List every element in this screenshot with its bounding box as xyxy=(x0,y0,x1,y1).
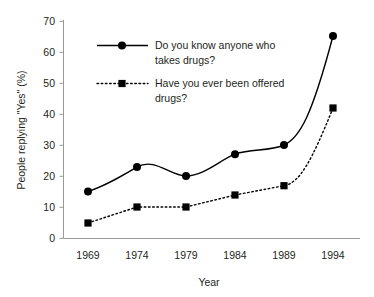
legend-label-offered-drugs-line1: Have you ever been offered xyxy=(155,77,285,89)
data-point-circle-1989 xyxy=(280,141,288,149)
data-point-square-1979 xyxy=(182,203,189,210)
data-point-circle-1974 xyxy=(133,163,141,171)
axis-group xyxy=(60,20,361,239)
data-point-square-1984 xyxy=(231,191,238,198)
series-offered-drugs xyxy=(84,104,336,226)
data-point-circle-1969 xyxy=(84,188,92,196)
x-tick-label-1994: 1994 xyxy=(321,249,345,261)
x-tick-label-1989: 1989 xyxy=(272,249,296,261)
legend-label-know-anyone-line1: Do you know anyone who xyxy=(155,39,275,51)
data-point-circle-1994 xyxy=(329,32,337,40)
x-tick-label-1969: 1969 xyxy=(76,249,100,261)
filled-square-marker-icon xyxy=(118,80,125,87)
chart-canvas: 70 60 50 40 30 20 10 0 1969 1974 1979 19… xyxy=(0,0,374,297)
y-tick-label-30: 30 xyxy=(43,139,55,151)
legend-item-know-anyone: Do you know anyone who takes drugs? xyxy=(97,39,275,66)
y-tick-label-40: 40 xyxy=(43,108,55,120)
data-point-square-1974 xyxy=(133,203,140,210)
data-point-square-1969 xyxy=(84,219,91,226)
x-tick-label-1974: 1974 xyxy=(125,249,149,261)
legend: Do you know anyone who takes drugs? Have… xyxy=(97,39,285,104)
legend-item-offered-drugs: Have you ever been offered drugs? xyxy=(97,77,285,104)
y-tick-marks xyxy=(60,21,64,238)
y-tick-label-50: 50 xyxy=(43,77,55,89)
y-tick-label-20: 20 xyxy=(43,170,55,182)
series-offered-drugs-line xyxy=(88,108,333,223)
line-chart-figure: 70 60 50 40 30 20 10 0 1969 1974 1979 19… xyxy=(0,0,374,297)
y-tick-label-10: 10 xyxy=(43,201,55,213)
y-tick-label-60: 60 xyxy=(43,46,55,58)
y-tick-labels: 70 60 50 40 30 20 10 0 xyxy=(43,15,55,244)
y-axis-title: People replying "Yes" (%) xyxy=(15,70,27,189)
y-tick-label-0: 0 xyxy=(49,232,55,244)
data-point-circle-1979 xyxy=(182,172,190,180)
data-point-square-1989 xyxy=(280,182,287,189)
filled-circle-marker-icon xyxy=(118,42,126,50)
x-tick-label-1979: 1979 xyxy=(174,249,198,261)
data-point-circle-1984 xyxy=(231,150,239,158)
legend-label-know-anyone-line2: takes drugs? xyxy=(155,54,215,66)
data-point-square-1994 xyxy=(329,104,336,111)
y-tick-label-70: 70 xyxy=(43,15,55,27)
x-tick-labels: 1969 1974 1979 1984 1989 1994 xyxy=(76,249,345,261)
x-axis-title: Year xyxy=(198,276,220,288)
legend-label-offered-drugs-line2: drugs? xyxy=(155,92,187,104)
x-tick-label-1984: 1984 xyxy=(223,249,247,261)
